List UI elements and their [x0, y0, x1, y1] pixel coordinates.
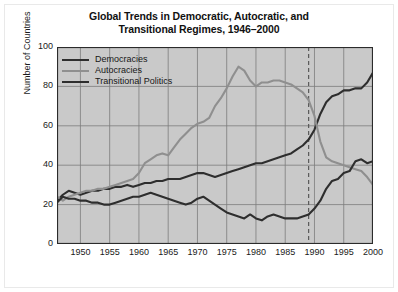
x-axis-tick-labels: 1950195519601965197019751980198519901995… [57, 247, 373, 263]
legend-line-swatch [62, 81, 89, 83]
legend-label: Autocracies [95, 65, 142, 76]
y-tick-label: 60 [25, 120, 53, 130]
y-tick-label: 80 [25, 80, 53, 90]
chart-legend: DemocraciesAutocraciesTransitional Polit… [62, 54, 202, 87]
chart-title: Global Trends in Democratic, Autocratic,… [0, 10, 398, 36]
legend-line-swatch [62, 59, 89, 61]
legend-label: Transitional Politics [95, 76, 172, 87]
legend-line-swatch [62, 70, 89, 72]
chart-figure: Global Trends in Democratic, Autocratic,… [0, 0, 398, 292]
y-tick-label: 0 [25, 238, 53, 248]
legend-item[interactable]: Autocracies [62, 65, 202, 76]
y-axis-tick-labels: 020406080100 [21, 47, 53, 244]
y-tick-label: 100 [25, 41, 53, 51]
y-tick-label: 20 [25, 199, 53, 209]
x-tick-label: 2000 [356, 247, 390, 257]
y-tick-label: 40 [25, 159, 53, 169]
legend-item[interactable]: Transitional Politics [62, 76, 202, 87]
legend-label: Democracies [95, 54, 148, 65]
chart-title-line1: Global Trends in Democratic, Autocratic,… [89, 10, 309, 22]
chart-title-line2: Transitional Regimes, 1946–2000 [0, 23, 398, 36]
legend-item[interactable]: Democracies [62, 54, 202, 65]
